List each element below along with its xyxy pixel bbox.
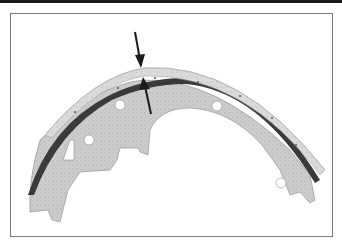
brake-shoe-illustration: [0, 0, 342, 245]
hole-4: [276, 178, 286, 188]
arrow-down-icon: [135, 32, 145, 68]
hole-1: [115, 100, 125, 110]
hole-2: [84, 135, 94, 145]
hole-3: [212, 101, 222, 111]
